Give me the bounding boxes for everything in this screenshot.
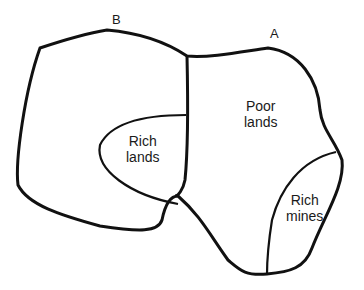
poor-lands-label: Poor lands — [244, 98, 277, 130]
rich-mines-line2: mines — [286, 208, 323, 224]
rich-lands-label: Rich lands — [126, 133, 159, 165]
rich-lands-line2: lands — [126, 149, 159, 165]
poor-lands-line2: lands — [244, 114, 277, 130]
outer-boundary — [17, 30, 342, 274]
map-diagram — [0, 0, 364, 290]
rich-mines-label: Rich mines — [286, 192, 323, 224]
country-b-label: B — [112, 12, 121, 28]
border-a-b — [175, 56, 188, 196]
rich-mines-line1: Rich — [286, 192, 323, 208]
country-a-label: A — [270, 26, 279, 42]
rich-lands-line1: Rich — [126, 133, 159, 149]
poor-lands-line1: Poor — [244, 98, 277, 114]
